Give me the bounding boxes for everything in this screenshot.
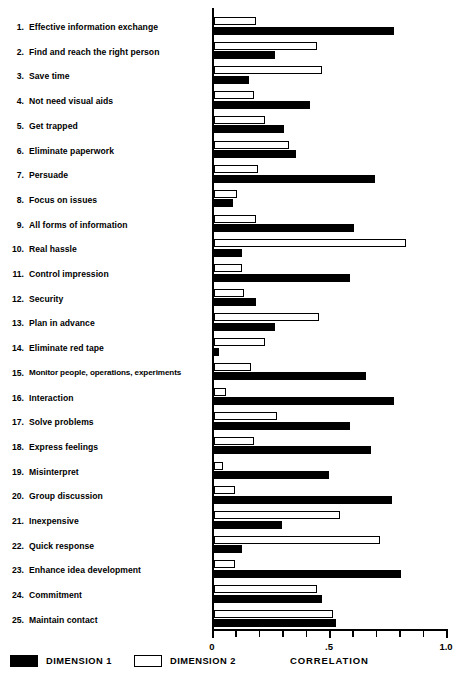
bar-dimension-1-20 <box>214 496 392 504</box>
bar-dimension-1-13 <box>214 323 275 331</box>
bar-dimension-1-6 <box>214 150 296 158</box>
category-number-20: 20. <box>0 491 29 501</box>
x-axis-tick-10 <box>446 629 448 638</box>
category-number-6: 6. <box>0 146 29 156</box>
category-text-15: Monitor people, operations, experiments <box>29 368 181 377</box>
category-number-10: 10. <box>0 244 29 254</box>
category-number-5: 5. <box>0 121 29 131</box>
category-label-22: 22.Quick response <box>0 538 212 554</box>
bar-dimension-2-20 <box>214 486 235 494</box>
category-label-16: 16.Interaction <box>0 390 212 406</box>
category-label-17: 17.Solve problems <box>0 414 212 430</box>
category-text-5: Get trapped <box>29 121 78 131</box>
category-number-1: 1. <box>0 22 29 32</box>
category-number-14: 14. <box>0 343 29 353</box>
bar-dimension-2-21 <box>214 511 340 519</box>
category-label-21: 21.Inexpensive <box>0 513 212 529</box>
category-number-3: 3. <box>0 71 29 81</box>
category-label-1: 1.Effective information exchange <box>0 19 212 35</box>
bar-dimension-2-25 <box>214 610 333 618</box>
category-text-25: Maintain contact <box>29 615 98 625</box>
bar-dimension-2-6 <box>214 141 289 149</box>
x-axis-tick-8 <box>399 629 401 637</box>
legend-item-dimension-2: DIMENSION 2 <box>134 655 236 667</box>
category-number-18: 18. <box>0 442 29 452</box>
category-number-15: 15. <box>0 368 29 378</box>
category-label-12: 12.Security <box>0 291 212 307</box>
category-text-10: Real hassle <box>29 244 77 254</box>
bar-dimension-2-17 <box>214 412 277 420</box>
bar-dimension-1-21 <box>214 521 282 529</box>
bar-dimension-1-22 <box>214 545 242 553</box>
category-text-23: Enhance idea development <box>29 565 141 575</box>
category-label-4: 4.Not need visual aids <box>0 93 212 109</box>
category-label-2: 2.Find and reach the right person <box>0 44 212 60</box>
x-axis-tick-9 <box>423 629 425 637</box>
category-text-1: Effective information exchange <box>29 22 158 32</box>
x-axis-tick-6 <box>352 629 354 637</box>
chart-legend: DIMENSION 1 DIMENSION 2 <box>10 655 258 667</box>
category-number-12: 12. <box>0 294 29 304</box>
category-label-20: 20.Group discussion <box>0 488 212 504</box>
category-number-7: 7. <box>0 170 29 180</box>
category-number-25: 25. <box>0 615 29 625</box>
bar-dimension-1-15 <box>214 372 366 380</box>
legend-label-dimension-2: DIMENSION 2 <box>170 656 236 666</box>
bar-dimension-2-19 <box>214 462 223 470</box>
legend-label-dimension-1: DIMENSION 1 <box>46 656 112 666</box>
category-number-16: 16. <box>0 393 29 403</box>
x-axis-tick-label-1: .5 <box>325 641 333 652</box>
bar-dimension-2-1 <box>214 17 256 25</box>
category-number-4: 4. <box>0 96 29 106</box>
category-text-11: Control impression <box>29 269 109 279</box>
category-text-22: Quick response <box>29 541 94 551</box>
category-label-3: 3.Save time <box>0 68 212 84</box>
category-label-7: 7.Persuade <box>0 167 212 183</box>
category-label-24: 24.Commitment <box>0 587 212 603</box>
bar-dimension-2-24 <box>214 585 317 593</box>
category-text-9: All forms of information <box>29 220 128 230</box>
bar-dimension-1-19 <box>214 471 329 479</box>
bar-dimension-2-11 <box>214 264 242 272</box>
bar-dimension-1-14 <box>214 348 219 356</box>
legend-item-dimension-1: DIMENSION 1 <box>10 655 112 667</box>
bar-dimension-2-7 <box>214 165 258 173</box>
bar-dimension-1-3 <box>214 76 249 84</box>
bar-dimension-1-10 <box>214 249 242 257</box>
category-text-2: Find and reach the right person <box>29 47 159 57</box>
bar-dimension-2-9 <box>214 215 256 223</box>
category-text-7: Persuade <box>29 170 68 180</box>
x-axis-tick-1 <box>235 629 237 637</box>
bar-dimension-1-16 <box>214 397 394 405</box>
bar-dimension-1-17 <box>214 422 350 430</box>
category-label-25: 25.Maintain contact <box>0 612 212 628</box>
category-label-18: 18.Express feelings <box>0 439 212 455</box>
category-label-23: 23.Enhance idea development <box>0 562 212 578</box>
x-axis-tick-label-2: 1.0 <box>439 641 452 652</box>
category-text-16: Interaction <box>29 393 73 403</box>
category-number-21: 21. <box>0 516 29 526</box>
bar-dimension-1-2 <box>214 51 275 59</box>
x-axis-title: CORRELATION <box>290 655 369 666</box>
category-number-22: 22. <box>0 541 29 551</box>
category-number-13: 13. <box>0 318 29 328</box>
legend-swatch-dimension-2 <box>134 655 162 667</box>
category-text-17: Solve problems <box>29 417 94 427</box>
category-number-9: 9. <box>0 220 29 230</box>
category-label-9: 9.All forms of information <box>0 217 212 233</box>
bar-dimension-1-11 <box>214 274 350 282</box>
bar-dimension-2-23 <box>214 560 235 568</box>
bar-dimension-1-23 <box>214 570 401 578</box>
category-text-3: Save time <box>29 71 70 81</box>
category-text-6: Eliminate paperwork <box>29 146 114 156</box>
bar-dimension-1-24 <box>214 595 322 603</box>
bar-dimension-1-25 <box>214 619 336 627</box>
plot-area <box>212 8 463 628</box>
category-text-13: Plan in advance <box>29 318 95 328</box>
category-label-11: 11.Control impression <box>0 266 212 282</box>
bar-dimension-1-7 <box>214 175 375 183</box>
bar-dimension-1-1 <box>214 27 394 35</box>
category-text-24: Commitment <box>29 590 82 600</box>
category-number-2: 2. <box>0 47 29 57</box>
category-number-11: 11. <box>0 269 29 279</box>
